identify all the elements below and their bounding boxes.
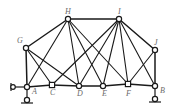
- member-group-bottom-chord: [27, 84, 155, 87]
- member-C-D: [52, 85, 79, 86]
- member-I-J: [119, 19, 155, 50]
- joint-label-H: H: [65, 8, 71, 16]
- member-E-F: [103, 84, 128, 86]
- joint-label-J: J: [154, 39, 158, 47]
- joint-F: [125, 81, 130, 86]
- joint-E: [100, 83, 105, 88]
- joint-A: [24, 84, 29, 89]
- support-A-roller: [24, 97, 29, 102]
- member-I-B: [119, 19, 155, 86]
- member-group-top-chord: [26, 19, 155, 87]
- joint-label-D: D: [77, 90, 83, 98]
- member-F-B: [128, 84, 155, 86]
- joint-label-C: C: [50, 89, 55, 97]
- truss-svg-canvas: [0, 0, 181, 112]
- joint-I: [116, 16, 121, 21]
- support-A-link-roller: [11, 85, 16, 90]
- joint-label-B: B: [160, 87, 165, 95]
- joint-H: [65, 16, 70, 21]
- member-A-G: [26, 48, 27, 87]
- member-A-C: [27, 85, 52, 87]
- member-I-F: [119, 19, 128, 84]
- joint-label-I: I: [118, 8, 121, 16]
- member-G-H: [26, 19, 68, 48]
- member-group-web-diagonals: [26, 19, 155, 87]
- joint-label-A: A: [32, 88, 37, 96]
- joint-label-F: F: [126, 90, 131, 98]
- member-I-E: [103, 19, 119, 86]
- joint-label-E: E: [102, 90, 107, 98]
- joint-G: [23, 45, 28, 50]
- joint-label-G: G: [17, 37, 23, 45]
- joint-C: [49, 82, 54, 87]
- joint-D: [76, 83, 81, 88]
- joint-J: [152, 47, 157, 52]
- truss-diagram: A B C D E F G H I J: [0, 0, 181, 112]
- support-B-pin: [152, 96, 157, 101]
- joint-B: [152, 83, 157, 88]
